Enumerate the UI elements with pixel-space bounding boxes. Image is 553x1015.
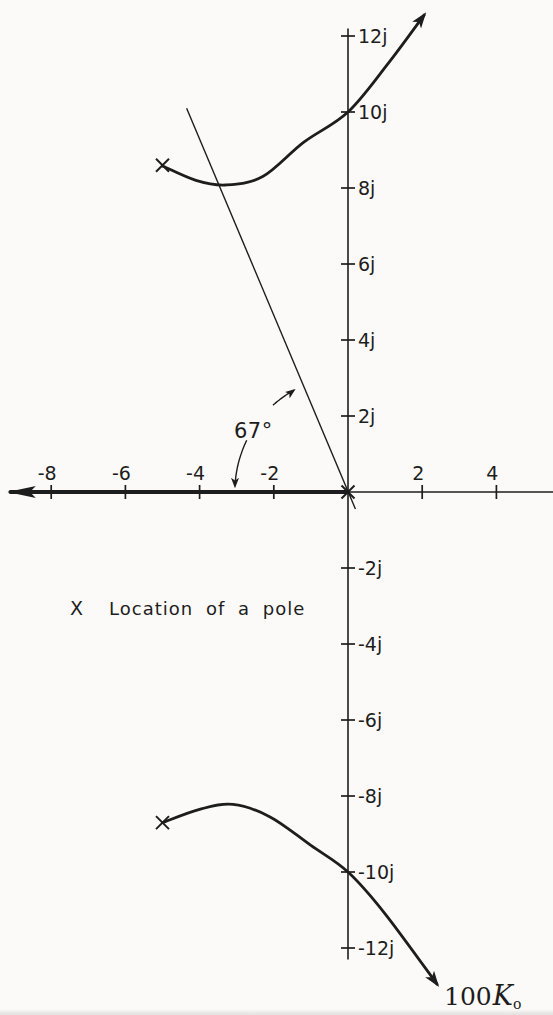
angle-arc-lower: [235, 440, 247, 486]
x-tick-label: -2: [260, 462, 279, 484]
gain-symbol: K: [492, 980, 513, 1011]
y-tick-label: -8j: [358, 785, 382, 807]
gain-subscript: o: [513, 996, 521, 1012]
pole-x-marker: [156, 159, 169, 172]
axes: [348, 28, 553, 959]
angle-arc-upper: [273, 390, 294, 405]
y-tick-label: 10j: [358, 101, 387, 123]
x-tick-label: -4: [186, 462, 205, 484]
asymptote: [187, 108, 356, 509]
gain-value: 100: [444, 982, 492, 1011]
gain-label: 100Ko: [444, 980, 521, 1012]
pole-legend-marker: X: [70, 597, 83, 619]
y-tick-label: 8j: [358, 177, 375, 199]
x-tick-label: -6: [112, 462, 131, 484]
y-tick-label: 4j: [358, 329, 375, 351]
y-tick-label: -12j: [358, 937, 394, 959]
y-tick-label: 2j: [358, 405, 375, 427]
y-tick-label: 6j: [358, 253, 375, 275]
y-tick-label: -4j: [358, 633, 382, 655]
y-tick-label: -10j: [358, 861, 394, 883]
x-tick-label: 4: [486, 462, 498, 484]
root-locus-figure: -8-6-4-22412j10j8j6j4j2j-2j-4j-6j-8j-10j…: [0, 0, 553, 1015]
pole-legend-text: Location of a pole: [109, 598, 305, 619]
s-plane-plot: -8-6-4-22412j10j8j6j4j2j-2j-4j-6j-8j-10j…: [0, 0, 553, 1015]
y-tick-label: 12j: [358, 25, 387, 47]
lower-complex-branch: [163, 804, 438, 984]
y-tick-label: -6j: [358, 709, 382, 731]
locus-branches: [10, 15, 437, 984]
x-tick-label: 2: [412, 462, 424, 484]
pole-legend: XLocation of a pole: [70, 597, 305, 619]
asymptote-line: [187, 108, 356, 509]
angle-annotation-label: 67°: [234, 419, 273, 443]
y-tick-label: -2j: [358, 557, 382, 579]
pole-x-marker: [156, 816, 169, 829]
x-tick-label: -8: [38, 462, 57, 484]
